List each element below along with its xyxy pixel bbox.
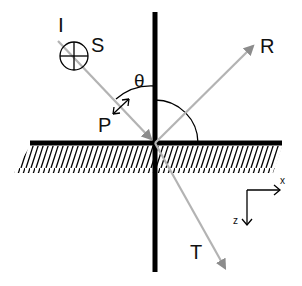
hatched-medium	[14, 146, 282, 173]
axis-z-label: z	[233, 215, 238, 226]
incident-label: I	[58, 13, 64, 36]
transmitted-label: T	[190, 241, 202, 263]
reflected-label: R	[260, 35, 274, 57]
coordinate-axes-icon	[242, 185, 280, 225]
s-polarization-label: S	[91, 34, 104, 56]
reflected-ray	[155, 46, 253, 143]
optics-diagram: I S P θ R T x z	[0, 0, 302, 286]
angle-theta-label: θ	[134, 70, 145, 91]
axis-x-label: x	[280, 175, 285, 186]
p-polarization-label: P	[98, 114, 111, 136]
s-polarization-icon	[60, 42, 88, 70]
